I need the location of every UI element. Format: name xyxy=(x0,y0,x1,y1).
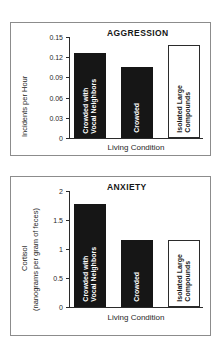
chart-panel-anxiety: ANXIETY Cortisol (nanograms per gram of … xyxy=(10,176,211,336)
y-tick-anxiety xyxy=(66,278,69,279)
y-tick-anxiety xyxy=(66,249,69,250)
bar-label-anxiety-3: Isolated LargeCompounds xyxy=(176,255,192,302)
y-tick-aggression xyxy=(66,98,69,99)
y-tick-label-aggression: 0.12 xyxy=(35,54,63,61)
bar-crowded-with-vocal-neighbors-aggression[interactable]: Crowded withVocal Neighbors xyxy=(74,53,106,138)
x-axis-line-anxiety xyxy=(69,307,203,308)
y-tick-aggression xyxy=(66,138,69,139)
chart-panel-aggression: AGGRESSION Incidents per Hour 0 0.03 0.0… xyxy=(10,22,211,156)
chart-aggression: AGGRESSION Incidents per Hour 0 0.03 0.0… xyxy=(11,23,210,155)
y-tick-label-anxiety: 1 xyxy=(37,246,63,253)
y-tick-label-aggression: 0 xyxy=(35,135,63,142)
y-axis-line-aggression xyxy=(69,37,70,138)
chart-title-aggression: AGGRESSION xyxy=(107,28,169,38)
y-axis-label-aggression: Incidents per Hour xyxy=(20,76,29,137)
bar-isolated-large-compounds-anxiety[interactable]: Isolated LargeCompounds xyxy=(168,240,200,307)
y-tick-anxiety xyxy=(66,191,69,192)
bar-crowded-anxiety[interactable]: Crowded xyxy=(121,240,153,307)
y-tick-label-anxiety: 0.5 xyxy=(37,275,63,282)
chart-title-anxiety: ANXIETY xyxy=(107,182,147,192)
bar-label-line1: Isolated Large xyxy=(176,255,183,302)
bar-crowded-with-vocal-neighbors-anxiety[interactable]: Crowded withVocal Neighbors xyxy=(74,204,106,307)
bar-label-line1: Crowded xyxy=(133,103,140,133)
y-tick-label-anxiety: 1.5 xyxy=(37,217,63,224)
bar-crowded-aggression[interactable]: Crowded xyxy=(121,67,153,138)
bar-label-aggression-1: Crowded withVocal Neighbors xyxy=(82,78,98,133)
bar-label-line2: Vocal Neighbors xyxy=(90,247,98,302)
y-tick-label-aggression: 0.09 xyxy=(35,74,63,81)
bar-label-line2: Vocal Neighbors xyxy=(90,78,98,133)
bar-label-line1: Crowded xyxy=(133,272,140,302)
bar-label-line1: Crowded with xyxy=(82,87,89,133)
y-tick-label-anxiety: 2 xyxy=(37,188,63,195)
x-axis-label-aggression: Living Condition xyxy=(69,143,203,152)
y-tick-aggression xyxy=(66,77,69,78)
y-tick-anxiety xyxy=(66,307,69,308)
figure-container: AGGRESSION Incidents per Hour 0 0.03 0.0… xyxy=(0,0,221,344)
y-tick-label-aggression: 0.03 xyxy=(35,114,63,121)
y-tick-label-anxiety: 0 xyxy=(37,304,63,311)
y-axis-line-anxiety xyxy=(69,191,70,307)
y-tick-aggression xyxy=(66,37,69,38)
y-tick-label-aggression: 0.06 xyxy=(35,94,63,101)
bar-isolated-large-compounds-aggression[interactable]: Isolated LargeCompounds xyxy=(168,45,200,138)
bar-label-line1: Crowded with xyxy=(82,256,89,302)
y-axis-label-anxiety: Cortisol xyxy=(20,246,29,271)
y-tick-label-aggression: 0.15 xyxy=(35,34,63,41)
bar-label-aggression-2: Crowded xyxy=(133,103,141,133)
bar-label-line2: Compounds xyxy=(184,86,192,133)
chart-anxiety: ANXIETY Cortisol (nanograms per gram of … xyxy=(11,177,210,335)
bar-label-line2: Compounds xyxy=(184,255,192,302)
y-tick-aggression xyxy=(66,57,69,58)
y-tick-anxiety xyxy=(66,220,69,221)
y-tick-aggression xyxy=(66,118,69,119)
bar-label-line1: Isolated Large xyxy=(176,86,183,133)
bar-label-aggression-3: Isolated LargeCompounds xyxy=(176,86,192,133)
bar-label-anxiety-1: Crowded withVocal Neighbors xyxy=(82,247,98,302)
x-axis-label-anxiety: Living Condition xyxy=(69,313,203,322)
bar-label-anxiety-2: Crowded xyxy=(133,272,141,302)
